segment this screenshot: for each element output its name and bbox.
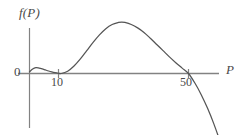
x-tick-label-50: 50 (180, 76, 192, 88)
x-axis-label: P (226, 63, 234, 76)
graph-figure: f(P) P 0 10 50 (0, 0, 242, 135)
y-axis-label: f(P) (19, 6, 40, 19)
origin-label: 0 (14, 65, 21, 78)
plot-canvas (0, 0, 242, 135)
x-tick-label-10: 10 (51, 76, 63, 88)
